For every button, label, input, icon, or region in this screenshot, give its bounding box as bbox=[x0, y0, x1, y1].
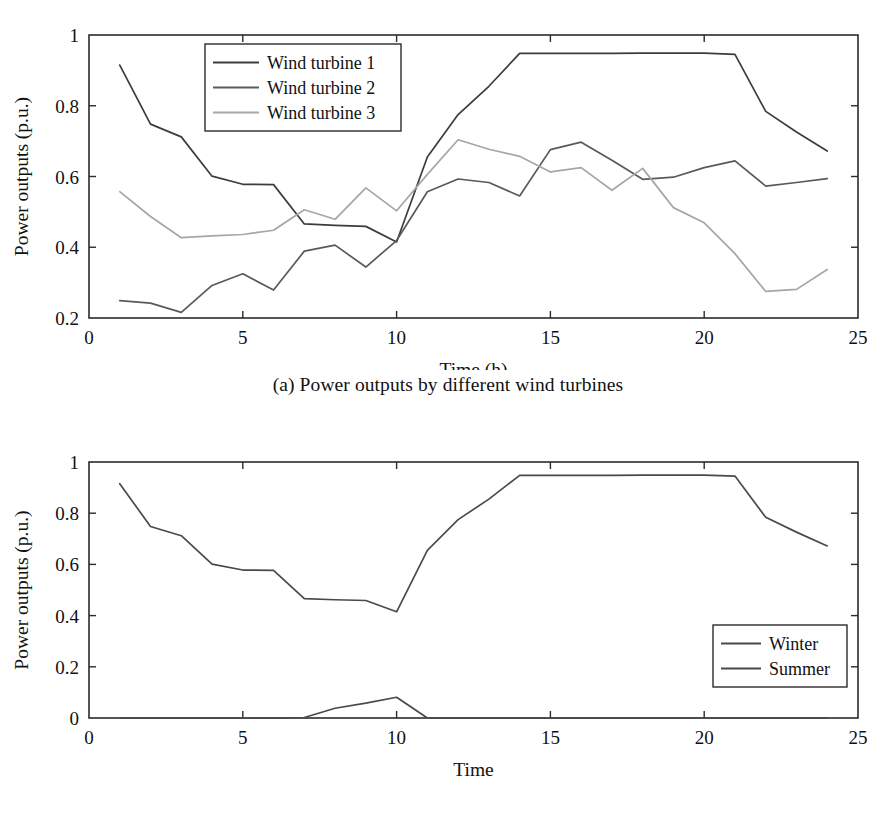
x-tick-label: 0 bbox=[84, 327, 94, 348]
x-tick-label: 15 bbox=[541, 327, 560, 348]
chart-a-caption: (a) Power outputs by different wind turb… bbox=[0, 374, 896, 396]
chart-panel-b: 051015202500.20.40.60.81TimePower output… bbox=[0, 420, 896, 839]
y-tick-label: 1 bbox=[70, 452, 80, 473]
y-tick-label: 0.2 bbox=[55, 657, 79, 678]
legend-label-winter: Winter bbox=[769, 634, 818, 654]
x-tick-label: 0 bbox=[84, 727, 94, 748]
legend-label-summer: Summer bbox=[769, 659, 830, 679]
y-tick-label: 0.6 bbox=[55, 167, 79, 188]
chart-panel-a: 05101520250.20.40.60.81Time (h)Power out… bbox=[0, 0, 896, 415]
series-line-wind-turbine-3 bbox=[120, 140, 827, 292]
chart-a-plot: 05101520250.20.40.60.81Time (h)Power out… bbox=[0, 0, 896, 370]
x-tick-label: 25 bbox=[849, 327, 868, 348]
series-line-wind-turbine-2 bbox=[120, 142, 827, 312]
y-tick-label: 1 bbox=[70, 25, 80, 46]
x-tick-label: 20 bbox=[695, 327, 714, 348]
series-line-summer bbox=[120, 697, 827, 718]
y-tick-label: 0 bbox=[70, 708, 80, 729]
x-axis-title: Time bbox=[453, 759, 493, 780]
legend-label-wind-turbine-3: Wind turbine 3 bbox=[267, 103, 375, 123]
x-tick-label: 20 bbox=[695, 727, 714, 748]
x-tick-label: 5 bbox=[238, 727, 248, 748]
chart-b-plot: 051015202500.20.40.60.81TimePower output… bbox=[0, 420, 896, 795]
y-tick-label: 0.4 bbox=[55, 237, 79, 258]
x-axis-title: Time (h) bbox=[439, 359, 507, 370]
series-line-winter bbox=[120, 475, 827, 612]
legend-label-wind-turbine-1: Wind turbine 1 bbox=[267, 53, 375, 73]
figure-container: 05101520250.20.40.60.81Time (h)Power out… bbox=[0, 0, 896, 839]
y-tick-label: 0.2 bbox=[55, 308, 79, 329]
y-axis-title: Power outputs (p.u.) bbox=[11, 97, 33, 256]
y-tick-label: 0.8 bbox=[55, 96, 79, 117]
x-tick-label: 10 bbox=[387, 727, 406, 748]
x-tick-label: 10 bbox=[387, 327, 406, 348]
y-tick-label: 0.6 bbox=[55, 554, 79, 575]
x-tick-label: 25 bbox=[849, 727, 868, 748]
y-tick-label: 0.4 bbox=[55, 606, 79, 627]
x-tick-label: 15 bbox=[541, 727, 560, 748]
y-axis-title: Power outputs (p.u.) bbox=[11, 510, 33, 669]
x-tick-label: 5 bbox=[238, 327, 248, 348]
y-tick-label: 0.8 bbox=[55, 503, 79, 524]
legend-label-wind-turbine-2: Wind turbine 2 bbox=[267, 78, 375, 98]
